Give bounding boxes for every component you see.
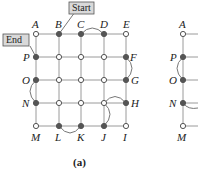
svg-text:C: C: [77, 18, 85, 30]
arc-h: [104, 97, 126, 104]
svg-text:H: H: [130, 97, 140, 109]
end-callout: End: [3, 34, 36, 57]
svg-text:J: J: [101, 131, 107, 143]
svg-text:O: O: [22, 74, 30, 86]
svg-text:N: N: [21, 97, 30, 109]
svg-text:D: D: [99, 18, 108, 30]
svg-text:M: M: [30, 131, 41, 143]
svg-text:Start: Start: [72, 2, 91, 13]
svg-text:P: P: [22, 51, 30, 63]
svg-text:G: G: [131, 74, 139, 86]
svg-text:I: I: [122, 131, 128, 143]
svg-text:N: N: [168, 97, 177, 109]
svg-text:B: B: [55, 18, 62, 30]
grid-diagram: Start End: [0, 0, 198, 175]
figure-caption: (a): [73, 156, 86, 169]
svg-text:M: M: [176, 131, 187, 143]
svg-text:A: A: [31, 18, 39, 30]
arc-j: [104, 103, 110, 126]
svg-text:End: End: [6, 34, 22, 45]
svg-text:O: O: [169, 74, 177, 86]
svg-text:A: A: [178, 18, 186, 30]
svg-text:P: P: [169, 51, 177, 63]
svg-text:E: E: [122, 18, 130, 30]
svg-text:L: L: [54, 131, 61, 143]
right-partial-figure: A P O N M: [168, 18, 198, 143]
arc-o-n: [30, 80, 36, 103]
svg-text:K: K: [76, 131, 85, 143]
svg-text:F: F: [129, 51, 137, 63]
